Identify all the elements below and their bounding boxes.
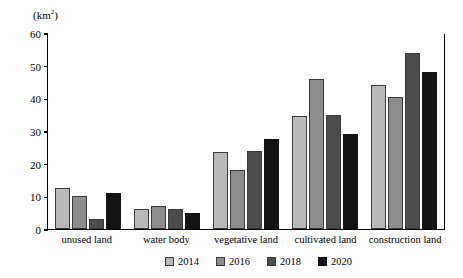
y-axis-tick-label: 10 [30, 189, 41, 205]
bar-2014[interactable] [213, 152, 228, 229]
bar-group [48, 34, 127, 229]
bar-2014[interactable] [55, 188, 70, 229]
bar-group [127, 34, 206, 229]
legend-swatch-2018 [267, 257, 276, 266]
bar-group [206, 34, 285, 229]
x-axis-category-label: cultivated land [286, 234, 366, 245]
bar-2016[interactable] [151, 206, 166, 229]
x-axis-category-label: water body [127, 234, 207, 245]
y-axis-unit-close: ) [54, 9, 58, 21]
x-axis-category-label: unused land [47, 234, 127, 245]
y-axis-tick-label: 40 [30, 91, 41, 107]
bar-group [286, 34, 365, 229]
y-axis-tick-label: 60 [30, 26, 41, 42]
legend-swatch-2014 [165, 257, 174, 266]
legend-swatch-2020 [318, 257, 327, 266]
legend-label: 2018 [280, 256, 301, 267]
x-axis-category-labels: unused landwater bodyvegetative landcult… [47, 234, 445, 245]
y-axis-unit-base: (km [33, 9, 51, 21]
bar-2020[interactable] [264, 139, 279, 229]
bar-group [365, 34, 444, 229]
legend-item-2020[interactable]: 2020 [318, 256, 352, 267]
y-axis-tick-label: 20 [30, 157, 41, 173]
bar-2020[interactable] [422, 72, 437, 229]
bar-2014[interactable] [134, 209, 149, 229]
bar-2020[interactable] [185, 213, 200, 229]
y-axis-tick-mark [44, 229, 48, 230]
bar-2018[interactable] [247, 151, 262, 229]
legend-label: 2016 [229, 256, 250, 267]
bar-chart: (km2) 6050403020100 unused landwater bod… [0, 0, 463, 278]
bar-2016[interactable] [230, 170, 245, 229]
bar-2016[interactable] [388, 97, 403, 229]
legend-label: 2020 [331, 256, 352, 267]
bar-2020[interactable] [343, 134, 358, 229]
legend-label: 2014 [178, 256, 199, 267]
y-axis-tick-label: 50 [30, 59, 41, 75]
y-axis-tick-label: 30 [30, 124, 41, 140]
x-axis-category-label: vegetative land [206, 234, 286, 245]
plot-area: 6050403020100 [47, 34, 445, 230]
y-axis-unit-label: (km2) [33, 8, 58, 21]
bar-2018[interactable] [168, 209, 183, 229]
legend-item-2014[interactable]: 2014 [165, 256, 199, 267]
legend-item-2018[interactable]: 2018 [267, 256, 301, 267]
legend-item-2016[interactable]: 2016 [216, 256, 250, 267]
bar-groups [48, 34, 444, 229]
bar-2018[interactable] [89, 219, 104, 229]
bar-2014[interactable] [371, 85, 386, 229]
bar-2020[interactable] [106, 193, 121, 229]
legend-swatch-2016 [216, 257, 225, 266]
x-axis-category-label: construction land [365, 234, 445, 245]
bar-2016[interactable] [72, 196, 87, 229]
bar-2014[interactable] [292, 116, 307, 229]
chart-legend: 2014201620182020 [0, 256, 463, 267]
bar-2016[interactable] [309, 79, 324, 229]
y-axis-tick-label: 0 [36, 222, 42, 238]
bar-2018[interactable] [405, 53, 420, 229]
bar-2018[interactable] [326, 115, 341, 229]
